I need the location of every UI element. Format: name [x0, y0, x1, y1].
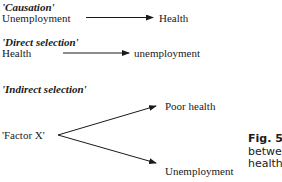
factor-x-label: 'Factor X': [2, 130, 45, 141]
poor-health-label: Poor health: [165, 101, 215, 112]
figure-caption-label: Fig. 5.3: [248, 133, 282, 145]
factor-to-poor-health-arrow: [58, 106, 156, 135]
figure-caption-line-3: health.: [248, 158, 282, 170]
causation-to-label: Health: [159, 13, 188, 24]
direct-selection-to-label: unemployment: [134, 48, 200, 59]
factor-to-unemployment-arrow: [58, 135, 156, 163]
direct-selection-from-label: Health: [2, 48, 31, 59]
causation-from-label: Unemployment: [2, 13, 70, 24]
indirect-selection-heading: 'Indirect selection': [2, 84, 87, 95]
unemployment-label: Unemployment: [165, 166, 233, 177]
